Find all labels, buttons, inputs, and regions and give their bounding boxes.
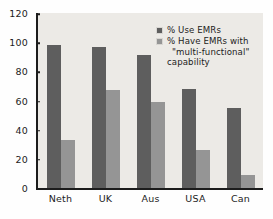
bar [196,150,210,188]
y-axis: 020406080100120 [0,13,33,190]
x-tick-label: USA [185,193,205,204]
bar [137,55,151,188]
bar [106,90,120,188]
legend-label-primary: % Use EMRs [167,25,221,35]
y-tick-mark [36,130,40,132]
x-tick-label: Aus [141,193,159,204]
legend-item-multifunctional: % Have EMRs with "multi-functional" capa… [156,36,268,67]
y-tick-label: 100 [9,38,28,48]
bar-group [38,13,83,188]
x-axis: NethUKAusUSACan [38,193,263,213]
x-tick-label: Neth [49,193,73,204]
legend-swatch-secondary-icon [156,38,163,45]
bar [241,175,255,188]
y-tick-mark [36,72,40,74]
y-tick-label: 0 [22,184,28,194]
legend-label-secondary-line2: "multi-functional" [167,47,250,57]
legend-label-secondary: % Have EMRs with "multi-functional" capa… [167,36,250,67]
legend-label-secondary-line3: capability [167,57,250,67]
y-tick-label: 40 [16,126,29,136]
bar [151,102,165,188]
y-tick-mark [36,101,40,103]
y-tick-label: 80 [16,68,29,78]
x-tick-label: UK [99,193,113,204]
bar [182,89,196,188]
chart-legend: % Use EMRs % Have EMRs with "multi-funct… [156,25,268,69]
bar [227,108,241,188]
bar-group [83,13,128,188]
y-tick-mark [36,42,40,44]
legend-label-primary-line1: % Use EMRs [167,25,221,35]
bar [92,47,106,188]
y-tick-mark [36,13,40,15]
legend-label-secondary-line1: % Have EMRs with [167,36,249,46]
bar-chart: 020406080100120 NethUKAusUSACan % Use EM… [0,0,273,219]
legend-swatch-primary-icon [156,27,163,34]
y-tick-label: 20 [16,155,29,165]
y-tick-mark [36,159,40,161]
y-tick-label: 60 [16,97,29,107]
bar [47,45,61,188]
bar [61,140,75,188]
x-tick-label: Can [231,193,250,204]
y-tick-label: 120 [9,9,28,19]
legend-item-use-emrs: % Use EMRs [156,25,268,35]
